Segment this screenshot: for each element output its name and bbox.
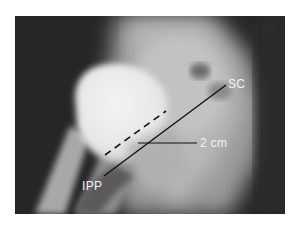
- sc-label: SC: [228, 78, 245, 90]
- sc-ipp-line: [104, 85, 226, 176]
- xray-image: SC 2 cm IPP: [15, 16, 285, 214]
- annotation-overlay: [15, 16, 285, 214]
- ipp-label: IPP: [82, 180, 102, 192]
- dashed-reference-line: [105, 111, 166, 155]
- measurement-label: 2 cm: [200, 137, 227, 149]
